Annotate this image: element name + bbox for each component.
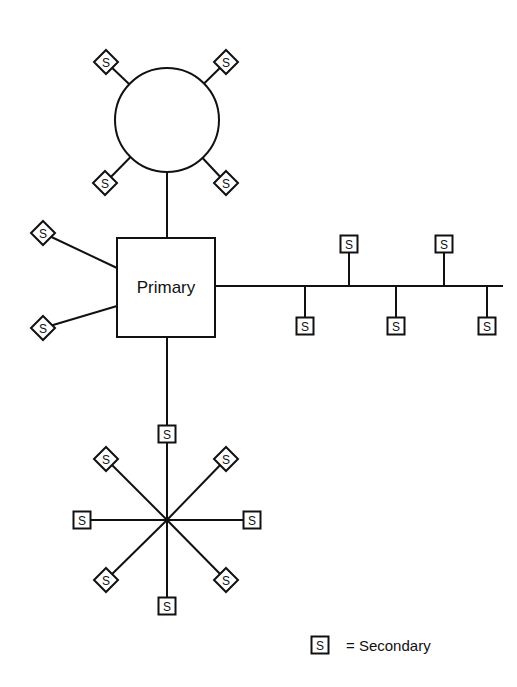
ring-network xyxy=(115,68,219,172)
secondary-label: S xyxy=(222,574,230,588)
direct-secondary-node: S xyxy=(31,221,55,245)
secondary-label: S xyxy=(301,320,309,334)
star-spoke-link xyxy=(167,459,226,520)
bus-secondary-node: S xyxy=(388,318,405,335)
secondary-label: S xyxy=(102,574,110,588)
star-spoke-link xyxy=(106,520,167,580)
secondary-label: S xyxy=(248,514,256,528)
secondary-label: S xyxy=(222,453,230,467)
direct-secondary-node: S xyxy=(31,316,55,340)
direct-link xyxy=(43,306,117,328)
primary-label: Primary xyxy=(137,278,196,297)
bus-secondary-node: S xyxy=(341,236,358,253)
bus-secondary-node: S xyxy=(297,318,314,335)
secondary-label: S xyxy=(222,177,230,191)
secondary-label: S xyxy=(78,514,86,528)
secondary-label: S xyxy=(316,639,324,653)
star-secondary-node: S xyxy=(74,512,91,529)
star-spoke-link xyxy=(106,459,167,520)
secondary-label: S xyxy=(163,600,171,614)
network-topology-diagram: SSSSSSSSSSSSSSSSSSSPrimaryS xyxy=(0,0,517,687)
secondary-label: S xyxy=(440,238,448,252)
bus-secondary-node: S xyxy=(436,236,453,253)
secondary-label: S xyxy=(392,320,400,334)
secondary-label: S xyxy=(483,320,491,334)
star-secondary-node: S xyxy=(244,512,261,529)
star-spoke-link xyxy=(167,520,226,580)
secondary-label: S xyxy=(39,322,47,336)
secondary-label: S xyxy=(101,177,109,191)
direct-link xyxy=(43,233,117,268)
secondary-label: S xyxy=(39,227,47,241)
secondary-label: S xyxy=(163,428,171,442)
secondary-label: S xyxy=(345,238,353,252)
star-secondary-node: S xyxy=(159,426,176,443)
legend-label: = Secondary xyxy=(346,637,431,654)
secondary-label: S xyxy=(222,56,230,70)
star-secondary-node: S xyxy=(159,598,176,615)
bus-secondary-node: S xyxy=(479,318,496,335)
legend-secondary-icon: S xyxy=(312,637,329,654)
secondary-label: S xyxy=(102,453,110,467)
secondary-label: S xyxy=(102,56,110,70)
